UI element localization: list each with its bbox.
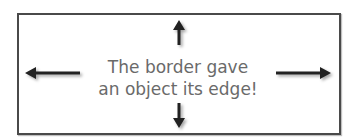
arrow-up-icon bbox=[172, 20, 186, 46]
caption-line-1: The border gave bbox=[0, 56, 356, 78]
caption: The border gave an object its edge! bbox=[0, 56, 356, 100]
arrow-down-icon bbox=[172, 103, 186, 129]
caption-line-2: an object its edge! bbox=[0, 78, 356, 100]
